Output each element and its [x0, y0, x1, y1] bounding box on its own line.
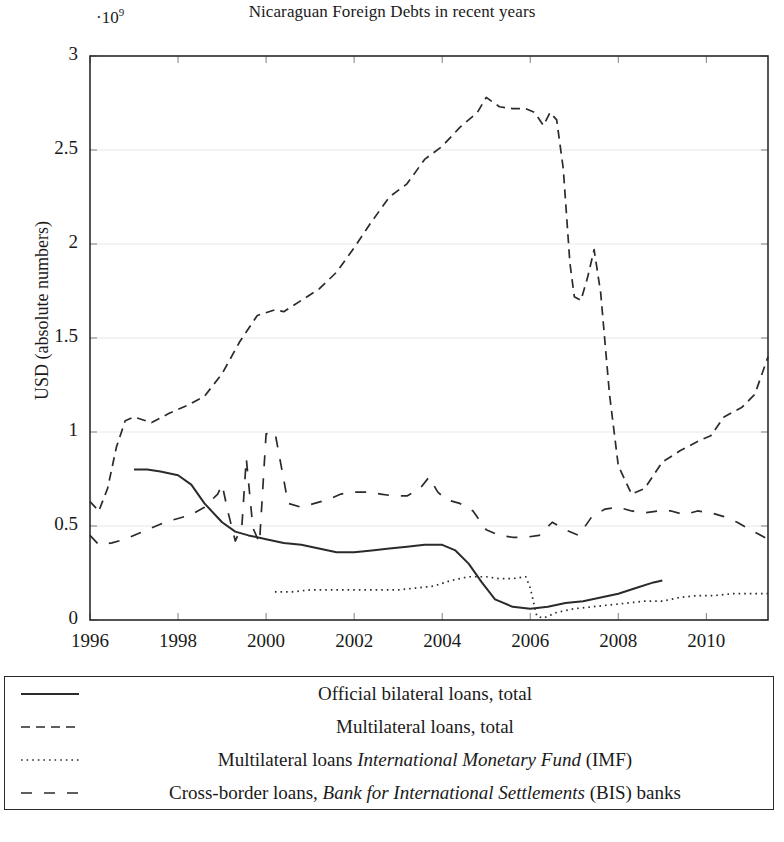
x-tick-label: 2004	[397, 630, 487, 652]
legend-entry: Cross-border loans, Bank for Internation…	[5, 776, 773, 809]
x-tick-label: 2010	[661, 630, 751, 652]
chart-legend: Official bilateral loans, totalMultilate…	[4, 676, 774, 810]
y-tick-label: 3	[18, 43, 78, 65]
x-tick-label: 1998	[133, 630, 223, 652]
legend-label: Official bilateral loans, total	[87, 683, 773, 705]
x-tick-label: 2006	[485, 630, 575, 652]
legend-line-swatch	[13, 684, 87, 704]
legend-line-swatch	[13, 750, 87, 770]
legend-label: Multilateral loans International Monetar…	[87, 749, 773, 771]
legend-entry: Multilateral loans International Monetar…	[5, 743, 773, 776]
plot-area	[0, 0, 784, 680]
legend-entry: Multilateral loans, total	[5, 710, 773, 743]
series-line-3	[275, 577, 768, 618]
gridlines	[90, 56, 768, 620]
legend-label: Multilateral loans, total	[87, 716, 773, 738]
x-tick-label: 2008	[573, 630, 663, 652]
legend-entry: Official bilateral loans, total	[5, 677, 773, 710]
series-line-1	[134, 470, 662, 609]
x-tick-label: 2002	[309, 630, 399, 652]
x-tick-label: 2000	[221, 630, 311, 652]
y-tick-label: 1	[18, 419, 78, 441]
series-line-4	[90, 432, 768, 545]
legend-label: Cross-border loans, Bank for Internation…	[87, 782, 773, 804]
legend-line-swatch	[13, 783, 87, 803]
data-series-group	[90, 97, 768, 618]
legend-line-swatch	[13, 717, 87, 737]
y-tick-label: 0.5	[18, 513, 78, 535]
series-line-2	[90, 97, 768, 511]
x-tick-label: 1996	[45, 630, 135, 652]
y-tick-label: 2.5	[18, 137, 78, 159]
y-tick-label: 0	[18, 607, 78, 629]
y-tick-label: 2	[18, 231, 78, 253]
y-tick-label: 1.5	[18, 325, 78, 347]
chart-figure: Nicaraguan Foreign Debts in recent years…	[0, 0, 784, 842]
